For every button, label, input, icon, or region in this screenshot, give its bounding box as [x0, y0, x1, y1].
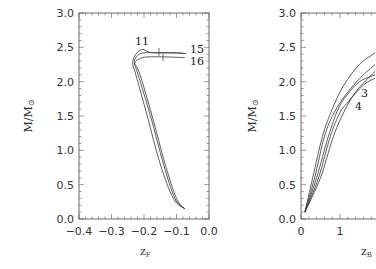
right-curves	[305, 53, 375, 212]
ytick-label: 0.0	[279, 213, 297, 226]
xtick-label: −0.3	[98, 225, 125, 238]
left-curves	[133, 49, 187, 208]
xtick-label: 0.0	[200, 225, 218, 238]
curve-label-4: 4	[355, 100, 362, 113]
ytick-label: 3.0	[57, 7, 75, 20]
left-panel: 0.0 0.5 1.0 1.5 2.0 2.5 3.0 −0.4 −0.3 −0…	[22, 7, 218, 259]
curve-15	[134, 53, 184, 209]
ytick-label: 2.5	[57, 41, 75, 54]
ytick-label: 0.5	[279, 179, 297, 192]
ytick-label: 2.0	[279, 76, 297, 89]
ytick-label: 2.5	[279, 41, 297, 54]
xtick-label: 1	[337, 225, 344, 238]
xtick-label: 0	[298, 225, 305, 238]
right-x-axis-title: zB	[361, 245, 372, 259]
ytick-label: 2.0	[57, 76, 75, 89]
ytick-label: 0.5	[57, 179, 75, 192]
curve-11	[133, 49, 187, 208]
xtick-label: −0.1	[163, 225, 190, 238]
xtick-label: −0.4	[66, 225, 93, 238]
ytick-label: 1.5	[57, 110, 75, 123]
ytick-label: 1.0	[57, 144, 75, 157]
left-xtick-labels: −0.4 −0.3 −0.2 −0.1 0.0	[66, 225, 218, 238]
right-panel: 0.0 0.5 1.0 1.5 2.0 2.5 3.0 0 1 M/M⊙ zB …	[246, 7, 376, 259]
right-xtick-labels: 0 1	[298, 225, 344, 238]
ytick-label: 1.0	[279, 144, 297, 157]
curve-label-3: 3	[361, 87, 368, 100]
curve-label-11: 11	[135, 35, 149, 48]
left-y-axis-title: M/M⊙	[22, 100, 36, 133]
left-ytick-labels: 0.0 0.5 1.0 1.5 2.0 2.5 3.0	[57, 7, 75, 226]
curve-16	[135, 57, 185, 209]
xtick-label: −0.2	[131, 225, 158, 238]
right-ytick-labels: 0.0 0.5 1.0 1.5 2.0 2.5 3.0	[279, 7, 297, 226]
curve-label-16: 16	[190, 55, 204, 68]
ytick-label: 1.5	[279, 110, 297, 123]
curve-a	[305, 53, 375, 212]
right-y-axis-title: M/M⊙	[246, 100, 260, 133]
ytick-label: 3.0	[279, 7, 297, 20]
left-x-axis-title: zF	[140, 245, 151, 259]
figure: 0.0 0.5 1.0 1.5 2.0 2.5 3.0 −0.4 −0.3 −0…	[0, 0, 376, 269]
